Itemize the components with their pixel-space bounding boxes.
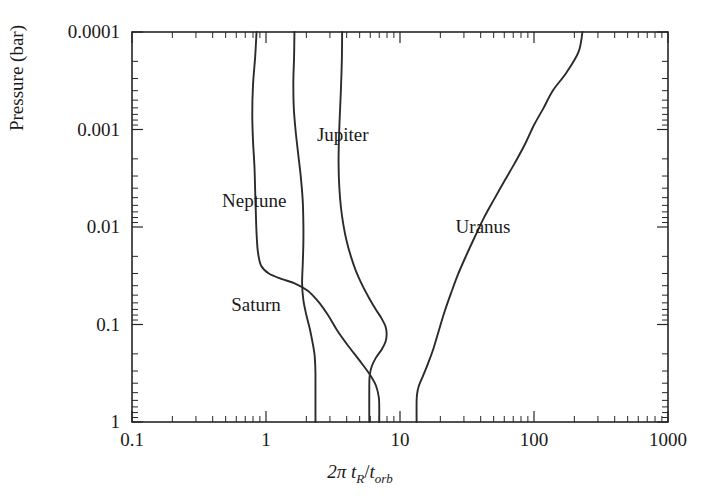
x-tick-label: 100	[520, 429, 549, 450]
y-axis-ticks-left	[132, 32, 143, 422]
x-tick-label: 10	[391, 429, 410, 450]
y-tick-label: 0.001	[77, 119, 120, 140]
curve-saturn	[293, 32, 315, 422]
curve-label-saturn: Saturn	[231, 294, 281, 315]
x-axis-tick-labels: 0.11101001000	[120, 429, 687, 450]
data-curves	[252, 32, 582, 422]
curve-label-uranus: Uranus	[456, 216, 511, 237]
curve-label-jupiter: Jupiter	[317, 124, 369, 145]
y-tick-label: 0.1	[96, 314, 120, 335]
curve-label-neptune: Neptune	[222, 190, 286, 211]
plot-frame	[132, 32, 668, 422]
y-axis-tick-labels: 0.00010.0010.010.11	[68, 21, 120, 432]
x-axis-title-prefix: 2π	[327, 461, 351, 482]
x-axis-title-sub2: orb	[375, 471, 394, 486]
x-axis-title: 2π tR/torb	[327, 461, 393, 486]
chart-plot: 0.11101001000 0.00010.0010.010.11 Neptun…	[0, 0, 721, 504]
x-tick-label: 1000	[649, 429, 687, 450]
x-axis-ticks-bottom	[132, 411, 668, 422]
x-tick-label: 0.1	[120, 429, 144, 450]
y-tick-label: 0.01	[87, 216, 120, 237]
y-tick-label: 0.0001	[68, 21, 120, 42]
figure-container: Pressure (bar) 0.11101001000 0.00010.001…	[0, 0, 721, 504]
y-tick-label: 1	[111, 411, 121, 432]
x-tick-label: 1	[261, 429, 271, 450]
y-axis-ticks-right	[657, 32, 668, 422]
x-axis-title-sub1: R	[355, 471, 364, 486]
x-axis-ticks-top	[132, 32, 668, 43]
